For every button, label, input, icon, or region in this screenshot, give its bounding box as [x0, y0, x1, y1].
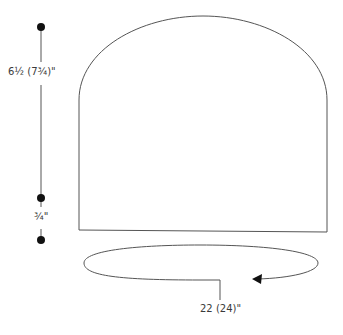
- measure-dot-top: [37, 23, 45, 31]
- circumference-label: 22 (24)": [200, 303, 241, 314]
- brim-label: ¾": [34, 211, 48, 222]
- measure-dot-bottom: [37, 236, 45, 244]
- hat-schematic: [0, 0, 343, 335]
- height-label: 6½ (7¾)": [8, 66, 56, 77]
- hat-outline: [79, 16, 327, 232]
- circumference-loop: [84, 245, 318, 280]
- measure-dot-middle: [37, 194, 45, 202]
- arrow-head-icon: [252, 274, 262, 284]
